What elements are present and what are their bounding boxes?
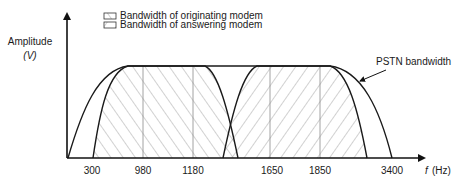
tick-3400: 3400	[381, 165, 404, 176]
tick-1850: 1850	[309, 165, 332, 176]
y-axis-unit: (V)	[23, 50, 36, 61]
tick-1180: 1180	[182, 165, 204, 176]
legend-swatch-originating	[104, 13, 116, 19]
tick-980: 980	[135, 165, 152, 176]
legend-swatch-answering	[104, 22, 116, 28]
pstn-label: PSTN bandwidth	[376, 56, 451, 67]
y-axis-label: Amplitude	[8, 36, 53, 47]
legend: Bandwidth of originating modem Bandwidth…	[104, 10, 263, 30]
tick-300: 300	[84, 165, 101, 176]
tick-1650: 1650	[261, 165, 284, 176]
legend-label-answering: Bandwidth of answering modem	[120, 19, 262, 30]
modem-bandwidth-diagram: Amplitude (V) f (Hz) 300 980 1180 1650 1…	[0, 0, 463, 184]
pstn-arrow	[360, 70, 386, 81]
x-axis-unit: (Hz)	[432, 165, 451, 176]
x-axis-label: f	[425, 165, 429, 176]
